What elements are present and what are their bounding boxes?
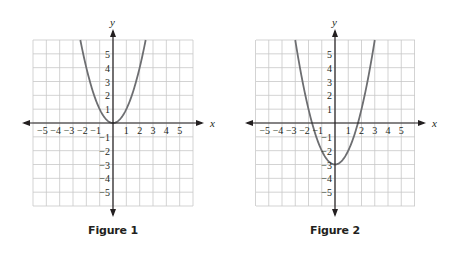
x-tick-label: 2: [359, 125, 364, 136]
y-tick-label: −2: [99, 146, 110, 157]
x-tick-label: 1: [124, 125, 129, 136]
y-tick-label: 4: [327, 63, 332, 74]
x-tick-label: 2: [137, 125, 142, 136]
figure-2-caption: Figure 2: [285, 224, 385, 237]
arrow-down-icon: [110, 209, 116, 217]
arrow-left-icon: [245, 120, 253, 126]
x-tick-label: −3: [286, 125, 297, 136]
x-tick-label: 5: [399, 125, 404, 136]
figure-2-graph: xy−5−4−3−2−112345−5−4−3−2−112345: [245, 16, 437, 217]
arrow-right-icon: [196, 120, 204, 126]
x-tick-label: 3: [372, 125, 377, 136]
x-tick-label: −2: [77, 125, 88, 136]
x-tick-label: 4: [164, 125, 169, 136]
graphs-canvas: xy−5−4−3−2−112345−5−4−3−2−112345 xy−5−4−…: [0, 0, 457, 254]
y-tick-label: 1: [105, 104, 110, 115]
y-tick-label: −1: [99, 132, 110, 143]
x-tick-label: 1: [346, 125, 351, 136]
axes: xy: [22, 16, 215, 217]
x-tick-label: 3: [151, 125, 156, 136]
figure-1-graph: xy−5−4−3−2−112345−5−4−3−2−112345: [22, 16, 215, 217]
arrow-down-icon: [332, 209, 338, 217]
x-tick-label: 4: [386, 125, 391, 136]
x-tick-label: −5: [259, 125, 270, 136]
y-tick-label: 5: [327, 49, 332, 60]
y-tick-label: 2: [327, 90, 332, 101]
arrow-right-icon: [418, 120, 426, 126]
y-tick-label: −5: [99, 187, 110, 198]
y-tick-label: 2: [105, 90, 110, 101]
y-tick-label: −3: [99, 160, 110, 171]
axes: xy: [245, 16, 437, 217]
x-tick-label: −5: [37, 125, 48, 136]
y-tick-label: −3: [321, 160, 332, 171]
figure-pair: xy−5−4−3−2−112345−5−4−3−2−112345 xy−5−4−…: [0, 0, 457, 254]
arrow-up-icon: [110, 29, 116, 37]
y-tick-label: −4: [99, 173, 110, 184]
y-tick-label: 5: [105, 49, 110, 60]
x-tick-label: −2: [299, 125, 310, 136]
x-tick-label: −4: [50, 125, 61, 136]
arrow-left-icon: [22, 120, 30, 126]
x-axis-label: x: [431, 117, 437, 129]
arrow-up-icon: [332, 29, 338, 37]
x-tick-label: 5: [177, 125, 182, 136]
y-tick-label: −4: [321, 173, 332, 184]
y-tick-label: 3: [105, 77, 110, 88]
y-tick-label: −2: [321, 146, 332, 157]
figure-1-caption: Figure 1: [63, 224, 163, 237]
y-tick-label: 1: [327, 104, 332, 115]
x-axis-label: x: [209, 117, 215, 129]
y-tick-label: −5: [321, 187, 332, 198]
y-axis-label: y: [109, 16, 115, 28]
y-tick-label: 3: [327, 77, 332, 88]
x-tick-label: −3: [64, 125, 75, 136]
y-tick-label: 4: [105, 63, 110, 74]
y-axis-label: y: [331, 16, 337, 28]
y-tick-label: −1: [321, 132, 332, 143]
x-tick-label: −4: [273, 125, 284, 136]
